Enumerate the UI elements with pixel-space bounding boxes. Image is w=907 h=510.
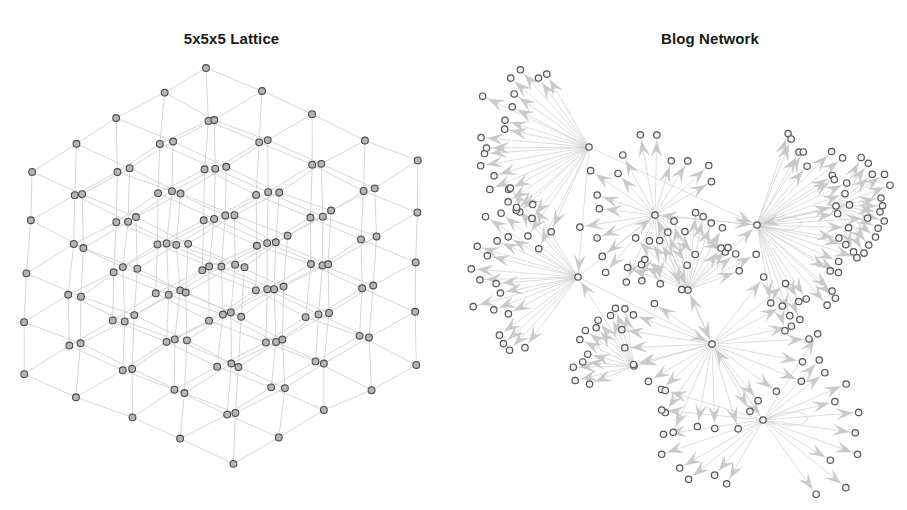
panel-blog: Blog Network xyxy=(453,0,907,510)
figure-root: 5x5x5 Lattice Blog Network xyxy=(0,0,907,510)
blog-graph xyxy=(453,0,907,510)
panel-lattice: 5x5x5 Lattice xyxy=(0,0,453,510)
lattice-graph xyxy=(0,0,453,510)
